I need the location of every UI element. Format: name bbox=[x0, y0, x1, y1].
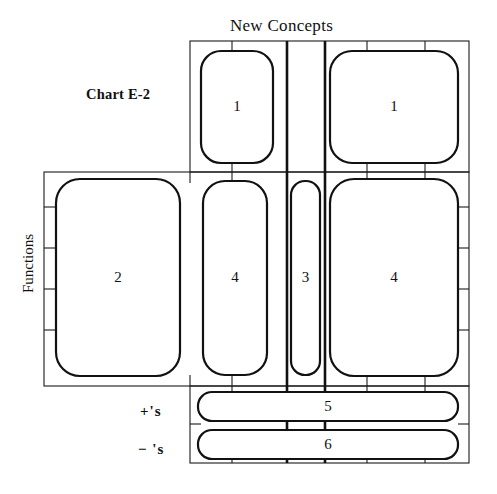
concept-blob-label: 1 bbox=[233, 98, 241, 114]
concept-blob-label: 3 bbox=[302, 269, 310, 285]
concept-blob-label: 4 bbox=[231, 269, 239, 285]
concept-blob: 1 bbox=[201, 51, 273, 163]
concept-blob: 3 bbox=[291, 181, 320, 375]
concept-blob: 2 bbox=[56, 179, 180, 376]
concept-blob: 4 bbox=[330, 179, 458, 376]
concept-blob-label: 4 bbox=[390, 269, 398, 285]
concept-blob: 1 bbox=[330, 51, 458, 163]
concept-blob-label: 1 bbox=[390, 98, 398, 114]
concept-blob: 6 bbox=[198, 430, 458, 459]
concept-blob: 5 bbox=[198, 392, 458, 421]
concept-blob-label: 5 bbox=[324, 398, 332, 414]
concept-blobs: 11243456 bbox=[56, 51, 458, 459]
matrix-diagram: 11243456 bbox=[0, 0, 497, 494]
concept-blob-label: 2 bbox=[114, 269, 122, 285]
concept-blob: 4 bbox=[203, 181, 267, 375]
concept-blob-label: 6 bbox=[324, 436, 332, 452]
chart-canvas: New Concepts Chart E-2 Functions +'s − '… bbox=[0, 0, 497, 494]
